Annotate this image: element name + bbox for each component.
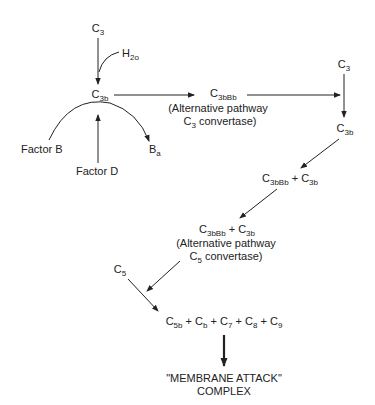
node-terminal-components: C5b + Cb + C7 + C8 + C9 <box>166 315 283 328</box>
node-ba: Ba <box>149 143 161 156</box>
node-mac-line2: COMPLEX <box>197 385 251 398</box>
c3-convertase-caption-line2: C3 convertase) <box>184 115 257 128</box>
node-factor-b: Factor B <box>21 143 63 156</box>
node-factor-d: Factor D <box>76 165 118 178</box>
node-c3bbb: C3bBb <box>210 87 237 100</box>
arrow-c3b-to-complex1 <box>301 139 339 168</box>
arrow-c5conv-to-terminal <box>147 261 180 291</box>
node-c3b: C3b <box>92 88 109 101</box>
node-c3-top: C3 <box>92 22 104 35</box>
pathway-arrows <box>0 0 375 405</box>
c5-convertase-caption-line1: (Alternative pathway <box>176 237 276 250</box>
node-c3bbb-c3b: C3bBb + C3b <box>262 172 318 185</box>
node-h2o: H2o <box>122 47 139 60</box>
node-c3-right: C3 <box>338 58 350 71</box>
node-mac-line1: "MEMBRANE ATTACK" <box>166 372 282 385</box>
arrow-factor-b-to-ba <box>49 102 149 141</box>
c5-convertase-caption-line2: C5 convertase) <box>190 250 263 263</box>
node-c5: C5 <box>114 263 126 276</box>
node-c3b-right: C3b <box>337 122 354 135</box>
node-c5-convertase: C3bBb + C3b <box>199 223 255 236</box>
arrow-complex1-to-complex2 <box>240 189 277 218</box>
arrow-c5-to-terminal <box>128 279 158 311</box>
c3-convertase-caption-line1: (Alternative pathway <box>168 102 268 115</box>
arrow-h2o <box>99 52 119 72</box>
